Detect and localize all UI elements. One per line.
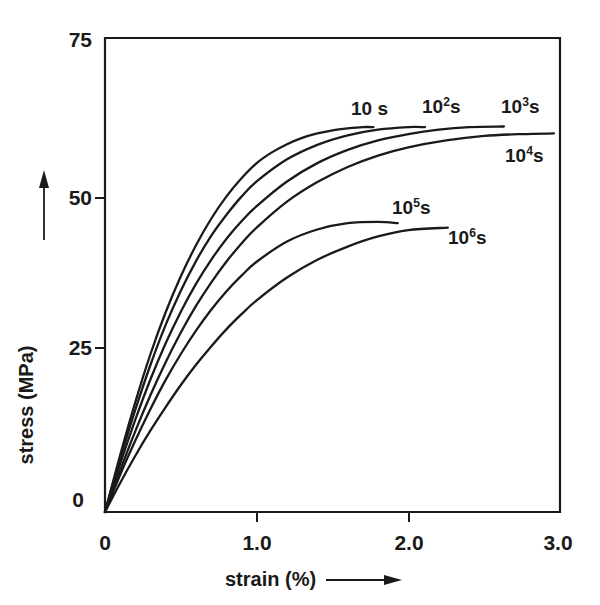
curve-label-10s: 10 s xyxy=(351,99,388,118)
curve-10s xyxy=(105,127,373,512)
curve-group xyxy=(105,126,554,512)
curve-10e6s xyxy=(105,228,448,512)
y-tick-label-0: 0 xyxy=(72,488,84,512)
curve-label-10e6s: 106s xyxy=(448,228,486,247)
plot-canvas xyxy=(0,0,600,605)
y-axis-title-wrap: stress (MPa) xyxy=(18,175,58,405)
curve-label-10e5s: 105s xyxy=(392,198,430,217)
x-tick-label-0: 0 xyxy=(99,531,111,555)
y-axis-title: stress (MPa) xyxy=(15,346,38,465)
y-tick-label-25: 25 xyxy=(69,336,92,360)
x-tick-label-3: 3.0 xyxy=(543,531,572,555)
x-axis-title-wrap: strain (%) xyxy=(225,568,404,591)
x-tick-label-1: 1.0 xyxy=(242,531,271,555)
stress-strain-figure: 75 50 25 0 0 1.0 2.0 3.0 stress (MPa) st… xyxy=(0,0,600,605)
x-axis-title: strain (%) xyxy=(225,568,316,591)
curve-label-10e4s: 104s xyxy=(505,146,543,165)
x-axis-arrow-icon xyxy=(326,572,404,588)
x-tick-label-2: 2.0 xyxy=(394,531,423,555)
curve-label-10e2s: 102s xyxy=(422,97,460,116)
curve-10e4s xyxy=(105,133,554,512)
y-tick-label-50: 50 xyxy=(69,186,92,210)
curve-10e2s xyxy=(105,127,425,512)
curve-10e3s xyxy=(105,126,504,512)
curve-label-10e3s: 103s xyxy=(501,97,539,116)
y-tick-label-75: 75 xyxy=(69,28,92,52)
axis-frame xyxy=(105,38,560,512)
